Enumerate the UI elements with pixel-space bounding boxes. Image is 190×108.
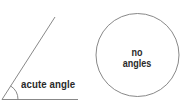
diagram-canvas: [0, 0, 190, 108]
no-angles-label-line1: no: [119, 47, 155, 58]
acute-angle-label: acute angle: [21, 78, 75, 90]
angle-arc: [11, 86, 18, 100]
no-angles-label: no angles: [119, 47, 155, 69]
no-angles-label-line2: angles: [119, 58, 155, 69]
